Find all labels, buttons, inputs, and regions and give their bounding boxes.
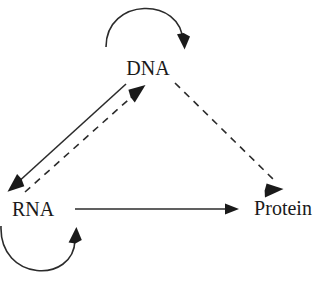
rna-to-dna-line	[25, 93, 136, 192]
rna-to-dna-arrowhead-icon	[128, 85, 145, 102]
edge-dna-to-protein	[175, 83, 284, 197]
rna-replication-arrowhead-icon	[69, 227, 82, 244]
edge-dna-to-rna	[8, 84, 127, 192]
edge-rna-to-dna	[25, 85, 146, 192]
dna-replication-arc	[106, 8, 183, 47]
diagram-canvas: DNA RNA Protein	[0, 0, 315, 288]
edge-rna-to-protein	[75, 203, 239, 214]
dna-to-protein-arrowhead-icon	[265, 184, 284, 198]
edge-rna-replication	[1, 226, 82, 271]
dna-to-protein-line	[175, 83, 274, 180]
dna-to-rna-line	[16, 84, 126, 184]
rna-to-protein-arrowhead-icon	[225, 203, 239, 214]
node-label-dna: DNA	[126, 57, 170, 79]
dna-replication-arrowhead-icon	[177, 33, 190, 50]
central-dogma-diagram: DNA RNA Protein	[0, 0, 315, 288]
node-label-rna: RNA	[12, 198, 55, 220]
dna-to-rna-arrowhead-icon	[8, 174, 25, 192]
rna-replication-arc	[1, 226, 75, 271]
node-label-protein: Protein	[254, 197, 312, 219]
edge-dna-replication	[106, 8, 190, 49]
